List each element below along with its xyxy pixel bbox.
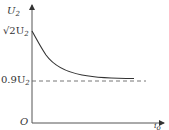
x-axis-label-sub: o bbox=[157, 124, 161, 130]
origin-text: O bbox=[20, 116, 28, 127]
origin-label: O bbox=[20, 117, 28, 127]
y-tick-sqrt2-prefix: √2U bbox=[3, 25, 24, 36]
chart-canvas bbox=[0, 0, 169, 130]
x-axis-label: io bbox=[154, 122, 161, 130]
voltage-curve bbox=[32, 31, 134, 79]
y-tick-0.9-u2: 0.9U2 bbox=[1, 75, 30, 87]
y-tick-0.9-prefix: 0.9U bbox=[1, 74, 25, 85]
y-axis-label: U2 bbox=[7, 6, 20, 18]
y-tick-sqrt2-sub: 2 bbox=[24, 30, 28, 38]
y-tick-sqrt2-u2: √2U2 bbox=[3, 26, 29, 38]
y-tick-0.9-sub: 2 bbox=[25, 79, 29, 87]
y-axis-label-sub: 2 bbox=[15, 10, 19, 18]
